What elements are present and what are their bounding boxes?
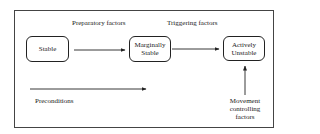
- movement-line1: Movement: [225, 97, 265, 105]
- movement-line2: controlling: [225, 105, 265, 113]
- movement-controlling-factors-label: Movement controlling factors: [225, 97, 265, 121]
- movement-line3: factors: [225, 113, 265, 121]
- preconditions-label: Preconditions: [35, 97, 74, 105]
